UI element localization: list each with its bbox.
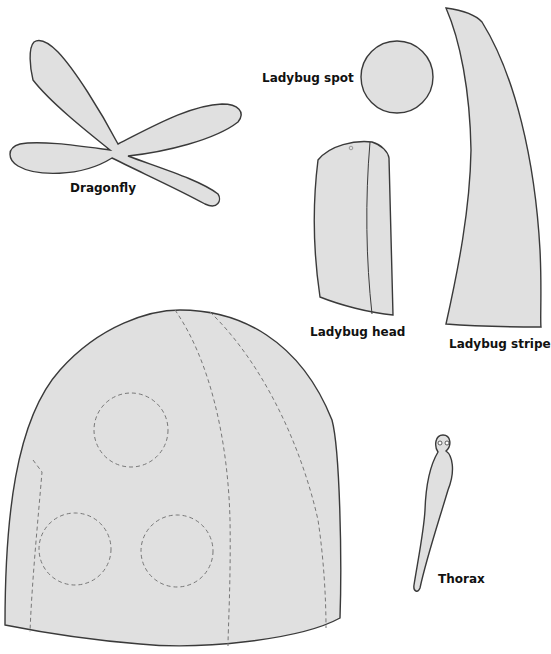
ladybug-stripe-label: Ladybug stripe (449, 337, 551, 351)
dragonfly-label: Dragonfly (70, 181, 136, 195)
ladybug-spot-label: Ladybug spot (262, 71, 354, 85)
ladybug-stripe-piece[interactable] (446, 8, 541, 327)
ladybug-head-piece[interactable] (314, 142, 393, 315)
thorax-label: Thorax (438, 572, 485, 586)
ladybug-body-piece[interactable] (5, 310, 341, 646)
ladybug-head-label: Ladybug head (310, 325, 405, 339)
thorax-eye-right (445, 441, 449, 445)
ladybug-spot-piece[interactable] (361, 41, 433, 113)
thorax-piece[interactable] (414, 435, 453, 591)
thorax-eye-left (438, 441, 442, 445)
